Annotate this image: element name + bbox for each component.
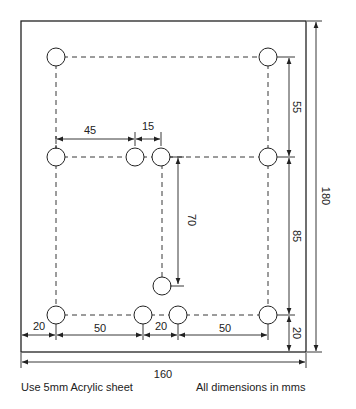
hole-mid-center-left — [126, 148, 144, 166]
hole-bottom-right — [259, 306, 277, 324]
dim-180: 180 — [320, 187, 332, 205]
dim-20-left: 20 — [33, 320, 45, 332]
acrylic-sheet-outline — [21, 21, 306, 352]
dim-55: 55 — [291, 101, 303, 113]
hole-top-left — [47, 48, 65, 66]
dim-20-mid: 20 — [155, 320, 167, 332]
material-note: Use 5mm Acrylic sheet — [21, 381, 133, 393]
hole-mid-center — [152, 148, 170, 166]
hole-top-right — [259, 48, 277, 66]
dim-45: 45 — [84, 124, 96, 136]
dim-50-right: 50 — [219, 322, 231, 334]
dim-160: 160 — [154, 368, 172, 380]
hole-bottom-center — [169, 306, 187, 324]
technical-drawing: 45 15 70 55 85 20 180 20 50 20 50 160 — [0, 0, 356, 409]
dim-15: 15 — [142, 120, 154, 132]
hole-mid-right — [259, 148, 277, 166]
hole-mid-left — [47, 148, 65, 166]
units-note: All dimensions in mms — [196, 381, 305, 393]
hole-lower-center — [153, 277, 171, 295]
hole-bottom-left — [47, 306, 65, 324]
dim-85: 85 — [291, 230, 303, 242]
hole-bottom-center-left — [134, 306, 152, 324]
centre-lines — [56, 57, 268, 315]
dim-70: 70 — [186, 214, 198, 226]
dim-50-left: 50 — [94, 322, 106, 334]
dim-20-right: 20 — [291, 327, 303, 339]
